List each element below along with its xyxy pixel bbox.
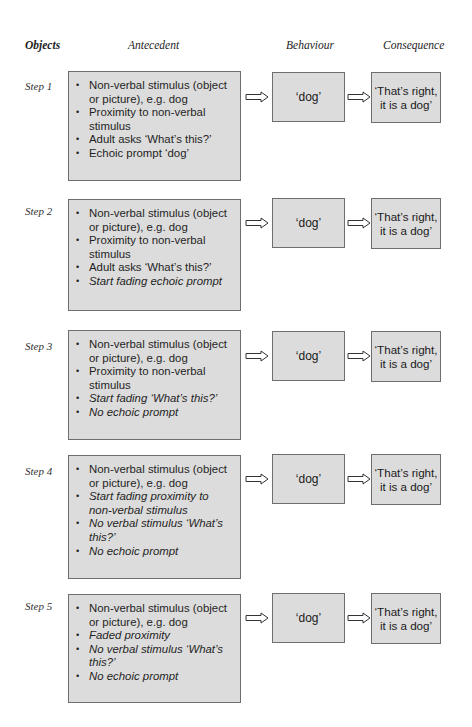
antecedent-item: Start fading ‘What’s this?’ bbox=[89, 392, 234, 406]
antecedent-item: Adult asks ‘What’s this?’ bbox=[89, 261, 234, 275]
step-label: Step 2 bbox=[25, 205, 52, 217]
arrow-right-icon bbox=[347, 217, 371, 229]
step-label: Step 1 bbox=[25, 80, 52, 92]
column-header-antecedent: Antecedent bbox=[128, 39, 179, 51]
antecedent-item: Non-verbal stimulus (object or picture),… bbox=[89, 338, 234, 365]
behaviour-text: ‘dog’ bbox=[296, 90, 321, 104]
antecedent-list: Non-verbal stimulus (object or picture),… bbox=[69, 456, 240, 558]
antecedent-list: Non-verbal stimulus (object or picture),… bbox=[69, 72, 240, 161]
step-label: Step 5 bbox=[25, 600, 52, 612]
consequence-box: ‘That’s right, it is a dog’ bbox=[371, 454, 441, 505]
antecedent-item: No echoic prompt bbox=[89, 545, 234, 559]
antecedent-item: Non-verbal stimulus (object or picture),… bbox=[89, 602, 234, 629]
antecedent-box: Non-verbal stimulus (object or picture),… bbox=[68, 330, 241, 440]
antecedent-box: Non-verbal stimulus (object or picture),… bbox=[68, 594, 241, 703]
column-header-consequence: Consequence bbox=[383, 39, 444, 51]
consequence-text: ‘That’s right, it is a dog’ bbox=[374, 84, 438, 112]
antecedent-item: No echoic prompt bbox=[89, 406, 234, 420]
antecedent-item: Faded proximity bbox=[89, 629, 234, 643]
antecedent-item: Adult asks ‘What’s this?’ bbox=[89, 133, 234, 147]
consequence-box: ‘That’s right, it is a dog’ bbox=[371, 593, 441, 644]
behaviour-text: ‘dog’ bbox=[296, 611, 321, 625]
antecedent-list: Non-verbal stimulus (object or picture),… bbox=[69, 331, 240, 420]
behaviour-text: ‘dog’ bbox=[296, 472, 321, 486]
arrow-right-icon bbox=[347, 91, 371, 103]
consequence-text: ‘That’s right, it is a dog’ bbox=[374, 343, 438, 371]
page-number: 181 bbox=[432, 0, 443, 2]
antecedent-item: Start fading proximity to non-verbal sti… bbox=[89, 490, 234, 517]
antecedent-item: Echoic prompt ‘dog’ bbox=[89, 147, 234, 161]
step-label: Step 4 bbox=[25, 465, 52, 477]
antecedent-item: Proximity to non-verbal stimulus bbox=[89, 106, 234, 133]
consequence-box: ‘That’s right, it is a dog’ bbox=[371, 198, 441, 249]
arrow-right-icon bbox=[245, 217, 269, 229]
behaviour-box: ‘dog’ bbox=[272, 72, 345, 122]
behaviour-text: ‘dog’ bbox=[296, 216, 321, 230]
antecedent-item: No echoic prompt bbox=[89, 670, 234, 684]
antecedent-item: Non-verbal stimulus (object or picture),… bbox=[89, 207, 234, 234]
antecedent-item: Proximity to non-verbal stimulus bbox=[89, 234, 234, 261]
behaviour-box: ‘dog’ bbox=[272, 454, 345, 504]
antecedent-box: Non-verbal stimulus (object or picture),… bbox=[68, 455, 241, 579]
consequence-box: ‘That’s right, it is a dog’ bbox=[371, 331, 441, 382]
behaviour-box: ‘dog’ bbox=[272, 593, 345, 643]
consequence-box: ‘That’s right, it is a dog’ bbox=[371, 72, 441, 123]
antecedent-item: Start fading echoic prompt bbox=[89, 275, 234, 289]
arrow-right-icon bbox=[347, 350, 371, 362]
running-head: TEACHING COMMUNICATION SKILLS bbox=[150, 0, 320, 2]
antecedent-item: Non-verbal stimulus (object or picture),… bbox=[89, 79, 234, 106]
antecedent-item: Proximity to non-verbal stimulus bbox=[89, 365, 234, 392]
step-label: Step 3 bbox=[25, 340, 52, 352]
arrow-right-icon bbox=[245, 91, 269, 103]
behaviour-box: ‘dog’ bbox=[272, 331, 345, 381]
consequence-text: ‘That’s right, it is a dog’ bbox=[374, 210, 438, 238]
arrow-right-icon bbox=[245, 350, 269, 362]
arrow-right-icon bbox=[245, 612, 269, 624]
consequence-text: ‘That’s right, it is a dog’ bbox=[374, 605, 438, 633]
antecedent-list: Non-verbal stimulus (object or picture),… bbox=[69, 595, 240, 684]
behaviour-box: ‘dog’ bbox=[272, 198, 345, 248]
column-header-behaviour: Behaviour bbox=[286, 39, 334, 51]
arrow-right-icon bbox=[245, 473, 269, 485]
arrow-right-icon bbox=[347, 473, 371, 485]
arrow-right-icon bbox=[347, 612, 371, 624]
antecedent-box: Non-verbal stimulus (object or picture),… bbox=[68, 199, 241, 311]
antecedent-list: Non-verbal stimulus (object or picture),… bbox=[69, 200, 240, 289]
consequence-text: ‘That’s right, it is a dog’ bbox=[374, 466, 438, 494]
column-header-objects: Objects bbox=[25, 39, 60, 51]
antecedent-item: No verbal stimulus ‘What’s this?’ bbox=[89, 643, 234, 670]
behaviour-text: ‘dog’ bbox=[296, 349, 321, 363]
antecedent-item: Non-verbal stimulus (object or picture),… bbox=[89, 463, 234, 490]
antecedent-item: No verbal stimulus ‘What’s this?’ bbox=[89, 517, 234, 544]
antecedent-box: Non-verbal stimulus (object or picture),… bbox=[68, 71, 241, 181]
